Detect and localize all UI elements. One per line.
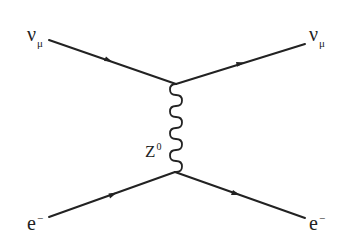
arrow-icon <box>231 190 240 195</box>
label-z-boson: Z0 <box>145 143 160 160</box>
diagram-lines <box>0 0 353 249</box>
incoming-neutrino-line <box>49 40 176 84</box>
label-incoming-electron: e− <box>27 213 42 233</box>
label-outgoing-electron: e− <box>309 213 324 233</box>
arrow-icon <box>236 62 245 67</box>
label-incoming-neutrino: νμ <box>27 24 42 44</box>
arrow-icon <box>109 193 118 199</box>
feynman-diagram: νμ νμ Z0 e− e− <box>0 0 353 249</box>
z-boson-propagator <box>170 84 182 172</box>
label-outgoing-neutrino: νμ <box>309 24 324 44</box>
arrow-icon <box>104 57 112 62</box>
